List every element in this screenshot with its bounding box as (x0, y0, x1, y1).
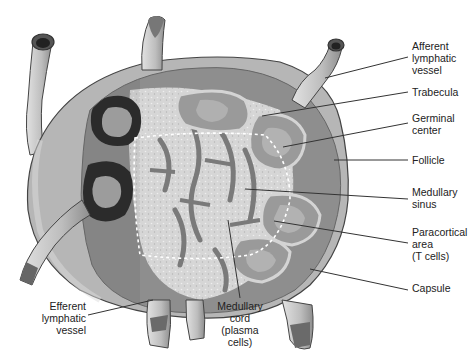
follicle-right-lower (262, 194, 320, 245)
efferent-vessel-bottom-right (282, 300, 313, 349)
label-germinal-center: Germinal center (412, 112, 455, 136)
label-trabecula: Trabecula (412, 86, 458, 98)
label-afferent-lymphatic-vessel: Afferent lymphatic vessel (412, 40, 456, 76)
label-efferent-lymphatic-vessel: Efferent lymphatic vessel (28, 300, 86, 336)
label-medullary-sinus: Medullary sinus (412, 186, 458, 210)
germinal-center-follicle (250, 114, 305, 170)
follicle-right-top (177, 91, 249, 132)
label-capsule: Capsule (412, 282, 451, 294)
label-paracortical-area: Paracortical area (T cells) (412, 226, 467, 262)
afferent-vessel-top (142, 16, 165, 70)
label-medullary-cord: Medullary cord (plasma cells) (212, 300, 268, 348)
label-follicle: Follicle (412, 154, 445, 166)
leader-capsule (310, 269, 408, 290)
